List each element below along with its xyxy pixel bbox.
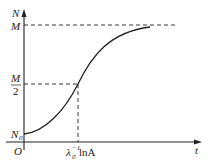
logistic-diagram: N M M 2 N 0 O t λ −1 0 lnA [0, 0, 209, 168]
label-inflection-lambda: λ [65, 146, 71, 158]
y-axis-label: N [11, 7, 20, 19]
label-N0-sub: 0 [19, 134, 23, 142]
label-half-M-num: M [10, 72, 21, 84]
label-inflection-sub: 0 [72, 153, 76, 161]
x-axis-label: t [195, 144, 199, 156]
label-M: M [10, 20, 21, 32]
y-axis-arrow [22, 9, 27, 17]
label-half-M-den: 2 [13, 85, 19, 97]
label-inflection-rest: lnA [79, 146, 96, 158]
origin-label: O [14, 145, 22, 157]
label-N0: N [10, 128, 19, 140]
logistic-curve [24, 27, 150, 134]
